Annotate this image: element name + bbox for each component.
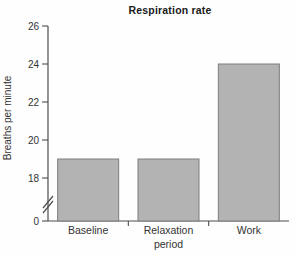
y-tick-label-0: 0 (33, 216, 39, 227)
y-tick-label-18: 18 (28, 173, 40, 184)
category-label-relaxation-period: period (154, 238, 183, 250)
bar-baseline (58, 159, 119, 221)
y-tick-label-22: 22 (28, 97, 40, 108)
category-label-baseline: Baseline (68, 224, 108, 236)
y-tick-label-20: 20 (28, 135, 40, 146)
y-tick-label-26: 26 (28, 21, 40, 32)
category-label-relaxation-period: Relaxation (144, 224, 194, 236)
y-axis-label: Breaths per minute (2, 75, 13, 160)
chart-title: Respiration rate (128, 4, 211, 16)
y-tick-label-24: 24 (28, 59, 40, 70)
bar-work (218, 64, 279, 221)
bar-relaxation-period (138, 159, 199, 221)
figure: Respiration rate Breaths per minute 0182… (0, 0, 297, 254)
plot-area: 01820222426BaselineRelaxationperiodWork (28, 21, 289, 251)
respiration-rate-bar-chart: Respiration rate Breaths per minute 0182… (0, 0, 297, 254)
category-label-work: Work (237, 224, 262, 236)
